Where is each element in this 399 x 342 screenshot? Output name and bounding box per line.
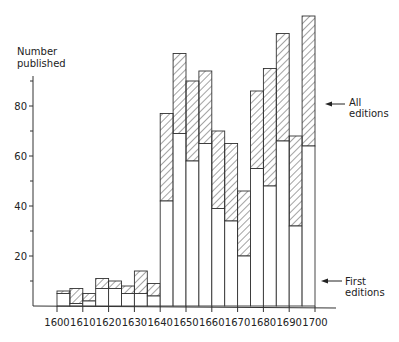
first-editions-segment bbox=[160, 201, 173, 306]
bar-1645 bbox=[173, 54, 186, 307]
all-editions-segment bbox=[109, 281, 122, 289]
y-axis-label-line2: published bbox=[17, 58, 77, 70]
all-editions-segment bbox=[238, 191, 251, 256]
bar-1630 bbox=[134, 271, 147, 306]
all-editions-segment bbox=[199, 71, 212, 144]
all-editions-line2: editions bbox=[349, 108, 389, 119]
all-editions-segment bbox=[70, 289, 83, 304]
all-editions-line1: All bbox=[349, 97, 389, 108]
first-editions-segment bbox=[251, 169, 264, 307]
y-tick-label: 60 bbox=[14, 151, 27, 162]
bar-1695 bbox=[302, 16, 315, 306]
all-editions-segment bbox=[186, 81, 199, 161]
x-tick-label: 1600 bbox=[44, 317, 69, 328]
first-editions-segment bbox=[289, 226, 302, 306]
first-editions-segment bbox=[225, 221, 238, 306]
all-editions-segment bbox=[134, 271, 147, 294]
bar-1685 bbox=[276, 34, 289, 307]
y-tick-label: 40 bbox=[14, 201, 27, 212]
first-editions-annotation: First editions bbox=[345, 276, 385, 298]
bar-1650 bbox=[186, 81, 199, 306]
bar-1625 bbox=[122, 286, 135, 306]
first-editions-segment bbox=[199, 144, 212, 307]
first-editions-segment bbox=[302, 146, 315, 306]
bars-group bbox=[57, 16, 315, 306]
first-editions-segment bbox=[70, 304, 83, 307]
bar-1600 bbox=[57, 291, 70, 306]
bar-1635 bbox=[147, 284, 160, 307]
bar-1620 bbox=[109, 281, 122, 306]
first-editions-line2: editions bbox=[345, 287, 385, 298]
first-editions-segment bbox=[173, 134, 186, 307]
x-tick-label: 1660 bbox=[199, 317, 224, 328]
first-editions-segment bbox=[134, 294, 147, 307]
all-editions-arrow-icon bbox=[325, 102, 345, 107]
first-editions-segment bbox=[57, 294, 70, 307]
first-editions-segment bbox=[109, 289, 122, 307]
x-tick-label: 1620 bbox=[96, 317, 121, 328]
all-editions-segment bbox=[173, 54, 186, 134]
bar-1665 bbox=[225, 144, 238, 307]
first-editions-segment bbox=[122, 294, 135, 307]
y-tick-label: 20 bbox=[14, 251, 27, 262]
bar-1670 bbox=[238, 191, 251, 306]
first-editions-segment bbox=[147, 296, 160, 306]
all-editions-segment bbox=[160, 114, 173, 202]
x-tick-label: 1670 bbox=[225, 317, 250, 328]
first-editions-line1: First bbox=[345, 276, 385, 287]
all-editions-segment bbox=[289, 136, 302, 226]
first-editions-segment bbox=[96, 289, 109, 307]
all-editions-annotation: All editions bbox=[349, 97, 389, 119]
bar-1610 bbox=[83, 294, 96, 307]
all-editions-segment bbox=[251, 91, 264, 169]
all-editions-segment bbox=[276, 34, 289, 142]
y-axis-label-line1: Number bbox=[17, 46, 77, 58]
x-tick-label: 1680 bbox=[251, 317, 276, 328]
y-tick-label: 80 bbox=[14, 101, 27, 112]
first-editions-segment bbox=[83, 301, 96, 306]
first-editions-segment bbox=[186, 161, 199, 306]
all-editions-segment bbox=[83, 294, 96, 302]
first-editions-segment bbox=[238, 256, 251, 306]
first-editions-segment bbox=[212, 209, 225, 307]
x-tick-label: 1700 bbox=[302, 317, 327, 328]
bar-1615 bbox=[96, 279, 109, 307]
bar-1680 bbox=[263, 69, 276, 307]
x-tick-label: 1630 bbox=[122, 317, 147, 328]
x-tick-label: 1650 bbox=[173, 317, 198, 328]
bar-1640 bbox=[160, 114, 173, 307]
bar-1675 bbox=[251, 91, 264, 306]
all-editions-segment bbox=[302, 16, 315, 146]
x-tick-label: 1640 bbox=[147, 317, 172, 328]
bar-1605 bbox=[70, 289, 83, 307]
first-editions-segment bbox=[263, 186, 276, 306]
all-editions-segment bbox=[147, 284, 160, 297]
all-editions-segment bbox=[263, 69, 276, 187]
x-tick-label: 1610 bbox=[70, 317, 95, 328]
first-editions-segment bbox=[276, 141, 289, 306]
all-editions-segment bbox=[225, 144, 238, 222]
all-editions-segment bbox=[212, 131, 225, 209]
bar-1690 bbox=[289, 136, 302, 306]
x-tick-label: 1690 bbox=[276, 317, 301, 328]
all-editions-segment bbox=[96, 279, 109, 289]
y-axis-label: Number published bbox=[17, 46, 77, 70]
all-editions-segment bbox=[122, 286, 135, 294]
first-editions-arrow-icon bbox=[321, 279, 342, 284]
bar-1660 bbox=[212, 131, 225, 306]
bar-1655 bbox=[199, 71, 212, 306]
